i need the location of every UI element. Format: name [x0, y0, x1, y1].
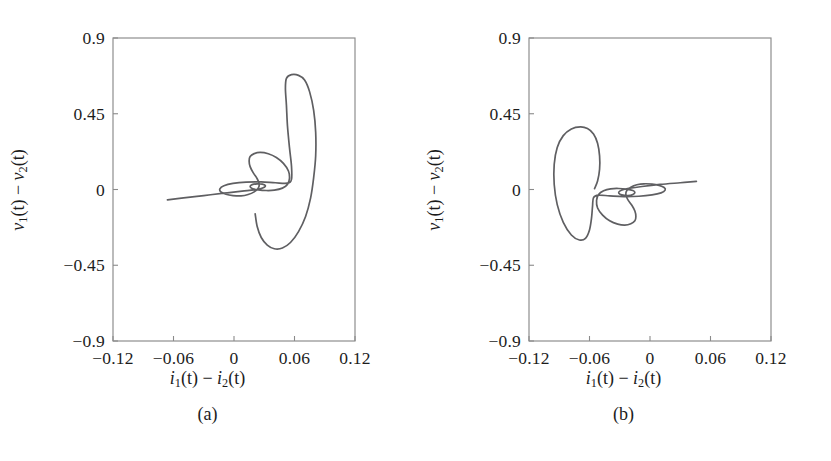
- figure-phase-portraits: i1(t) − i2(t) v1(t) − v2(t) (a) 0.90.450…: [0, 0, 831, 461]
- x-tick-label: 0.12: [755, 348, 786, 369]
- y-tick-label: 0: [512, 179, 521, 200]
- panel-a: i1(t) − i2(t) v1(t) − v2(t) (a) 0.90.450…: [0, 0, 415, 461]
- x-tick-label: −0.12: [508, 348, 550, 369]
- y-tick-label: −0.45: [64, 255, 106, 276]
- x-tick-label: −0.06: [569, 348, 611, 369]
- axes-frame: [529, 38, 771, 341]
- y-axis-title-b: v1(t) − v2(t): [424, 149, 447, 230]
- panel-caption-a: (a): [198, 404, 218, 425]
- x-axis-title-a: i1(t) − i2(t): [170, 368, 245, 391]
- y-axis-title-a: v1(t) − v2(t): [8, 149, 31, 230]
- axes-frame: [113, 38, 355, 341]
- y-tick-label: 0.9: [499, 28, 521, 49]
- panel-b: i1(t) − i2(t) v1(t) − v2(t) (b) 0.90.450…: [416, 0, 831, 461]
- plot-area-a: [0, 0, 415, 461]
- x-tick-label: −0.12: [92, 348, 134, 369]
- y-tick-label: 0: [96, 179, 105, 200]
- x-tick-label: 0.12: [339, 348, 370, 369]
- x-tick-label: 0: [230, 348, 239, 369]
- panel-caption-b: (b): [613, 404, 634, 425]
- x-axis-title-b: i1(t) − i2(t): [586, 368, 661, 391]
- y-tick-label: 0.45: [490, 103, 521, 124]
- x-tick-label: 0.06: [695, 348, 726, 369]
- x-tick-label: 0.06: [279, 348, 310, 369]
- x-tick-label: 0: [646, 348, 655, 369]
- y-tick-label: 0.9: [83, 28, 105, 49]
- y-tick-label: 0.45: [74, 103, 105, 124]
- x-tick-label: −0.06: [153, 348, 195, 369]
- y-tick-label: −0.45: [480, 255, 522, 276]
- plot-area-b: [416, 0, 831, 461]
